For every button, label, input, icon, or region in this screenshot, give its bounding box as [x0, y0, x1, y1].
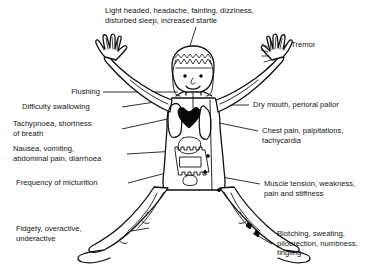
label-flushing: Flushing: [58, 87, 100, 97]
left-hand: [96, 34, 127, 60]
label-nausea: Nausea, vomiting, abdominal pain, diarrh…: [13, 144, 101, 163]
label-blotching: Blotching, sweating, piloerection, numbn…: [277, 229, 358, 258]
head-shape: [172, 46, 214, 92]
label-light-headed: Light headed, headache, fainting, dizzin…: [105, 6, 254, 25]
left-eye: [184, 75, 187, 78]
left-foot: [78, 250, 110, 263]
label-dry-mouth: Dry mouth, perioral pallor: [253, 100, 339, 110]
anxiety-symptoms-body-diagram: Light headed, headache, fainting, dizzin…: [0, 0, 389, 280]
left-arm: [104, 56, 172, 112]
left-hand-shape: [96, 34, 127, 60]
label-difficulty-swallowing: Difficulty swallowing: [22, 102, 90, 112]
hip-joint-dot: [217, 188, 220, 191]
leader-breathing: [122, 118, 172, 129]
label-tachypnoea: Tachypnoea, shortness of breath: [13, 119, 92, 138]
head: [172, 46, 214, 96]
leader-urinary: [128, 173, 166, 183]
organ-dot-lower: [204, 171, 207, 174]
organ-dot-upper: [207, 155, 210, 158]
label-fidgety: Fidgety, overactive, underactive: [16, 224, 82, 243]
label-frequency-of-micturition: Frequency of micturition: [16, 178, 98, 188]
label-muscle-tension: Muscle tension, weakness, pain and stiff…: [264, 179, 355, 198]
label-tremor: Tremor: [291, 40, 315, 50]
label-chest-pain: Chest pain, palpitations, tachycardia: [262, 126, 344, 145]
left-leg: [89, 187, 168, 252]
right-eye: [200, 75, 203, 78]
